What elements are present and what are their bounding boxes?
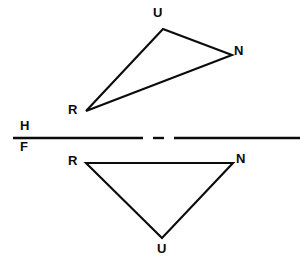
vertex-label-u-front-view: U	[157, 242, 166, 255]
horizontal-plane-label: H	[20, 119, 29, 132]
triangle-run-frontal-projection	[86, 163, 233, 238]
vertex-label-r-top-view: R	[68, 103, 77, 116]
frontal-plane-label: F	[20, 140, 28, 153]
vertex-label-r-front-view: R	[68, 154, 77, 167]
vertex-label-n-top-view: N	[234, 44, 243, 57]
vertex-label-n-front-view: N	[236, 152, 245, 165]
top-view-triangle	[86, 29, 232, 111]
geometry-figure: U N R R N U H F	[0, 0, 307, 263]
triangle-run-horizontal-projection	[86, 29, 232, 111]
figure-canvas	[0, 0, 307, 263]
vertex-label-u-top-view: U	[153, 6, 162, 19]
front-view-triangle	[86, 163, 233, 238]
